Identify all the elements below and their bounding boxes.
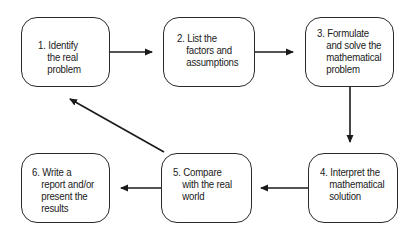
step-5-line-2: with the real (173, 178, 232, 190)
step-1-line-1: 1. Identify (38, 39, 81, 51)
step-5-line-1: 5. Compare (173, 166, 232, 178)
step-3-line-3: mathematical (317, 51, 381, 63)
step-5-box: 5. Compare with the real world (161, 153, 252, 223)
step-1-line-3: problem (38, 63, 81, 75)
step-6-line-1: 6. Write a (32, 166, 94, 178)
step-6-box: 6. Write a report and/or present the res… (21, 153, 110, 223)
step-4-box: 4. Interpret the mathematical solution (308, 153, 398, 223)
step-2-line-3: assumptions (177, 56, 238, 68)
step-2-box: 2. List the factors and assumptions (163, 17, 255, 87)
step-5-line-3: world (173, 190, 232, 202)
step-1-line-2: the real (38, 51, 81, 63)
step-2-line-1: 2. List the (177, 32, 238, 44)
step-4-line-2: mathematical (320, 178, 384, 190)
step-3-line-4: problem (317, 63, 381, 75)
step-4-line-3: solution (320, 190, 384, 202)
step-1-box: 1. Identify the real problem (21, 17, 110, 87)
step-3-box: 3. Formulate and solve the mathematical … (305, 17, 394, 87)
step-4-line-1: 4. Interpret the (320, 166, 384, 178)
step-6-line-3: present the (32, 190, 94, 202)
step-2-line-2: factors and (177, 44, 238, 56)
step-6-line-4: results (32, 202, 94, 214)
arrow-5-to-1 (70, 99, 164, 152)
step-3-line-1: 3. Formulate (317, 27, 381, 39)
step-3-line-2: and solve the (317, 39, 381, 51)
step-6-line-2: report and/or (32, 178, 94, 190)
